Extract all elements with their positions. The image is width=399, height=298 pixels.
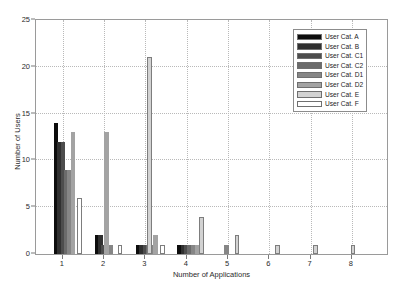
legend-label: User Cat. F bbox=[325, 99, 359, 109]
gridline-vertical bbox=[187, 20, 188, 254]
gridline-horizontal bbox=[36, 113, 387, 114]
x-tick-mark bbox=[103, 255, 104, 259]
x-tick-label: 2 bbox=[101, 259, 105, 268]
bar bbox=[224, 245, 229, 254]
x-tick-label: 4 bbox=[184, 259, 188, 268]
legend-label: User Cat. B bbox=[325, 42, 359, 52]
legend-item: User Cat. C1 bbox=[297, 51, 363, 61]
legend-item: User Cat. D2 bbox=[297, 80, 363, 90]
figure-bar-chart: 0510152025 Number of Users 12345678 Numb… bbox=[0, 0, 399, 298]
legend-item: User Cat. D1 bbox=[297, 70, 363, 80]
bar bbox=[153, 235, 158, 254]
bar bbox=[275, 245, 280, 254]
legend-swatch bbox=[297, 82, 322, 89]
x-tick-label: 8 bbox=[349, 259, 353, 268]
bar bbox=[77, 198, 82, 254]
x-tick-label: 7 bbox=[308, 259, 312, 268]
y-tick-label: 5 bbox=[26, 202, 30, 211]
bar bbox=[160, 245, 165, 254]
y-tick-label: 0 bbox=[26, 249, 30, 258]
legend-item: User Cat. B bbox=[297, 42, 363, 52]
legend-item: User Cat. F bbox=[297, 99, 363, 109]
x-tick-mark bbox=[310, 255, 311, 259]
y-tick-label: 25 bbox=[22, 15, 30, 24]
legend-swatch bbox=[297, 101, 322, 108]
gridline-horizontal bbox=[36, 206, 387, 207]
legend-item: User Cat. C2 bbox=[297, 61, 363, 71]
y-axis-title: Number of Users bbox=[13, 82, 22, 202]
legend-swatch bbox=[297, 53, 322, 60]
bar bbox=[147, 57, 152, 254]
y-tick-label: 20 bbox=[22, 61, 30, 70]
legend-swatch bbox=[297, 62, 322, 69]
bar bbox=[351, 245, 356, 254]
legend-item: User Cat. E bbox=[297, 90, 363, 100]
bar bbox=[118, 245, 123, 254]
y-tick-label: 15 bbox=[22, 108, 30, 117]
x-tick-label: 1 bbox=[60, 259, 64, 268]
x-axis-title: Number of Applications bbox=[35, 270, 388, 279]
legend-label: User Cat. C2 bbox=[325, 61, 363, 71]
legend-swatch bbox=[297, 91, 322, 98]
x-tick-label: 5 bbox=[225, 259, 229, 268]
x-tick-mark bbox=[268, 255, 269, 259]
x-tick-label: 3 bbox=[142, 259, 146, 268]
legend-swatch bbox=[297, 43, 322, 50]
legend-label: User Cat. D1 bbox=[325, 70, 363, 80]
legend: User Cat. AUser Cat. BUser Cat. C1User C… bbox=[293, 29, 367, 112]
x-tick-mark bbox=[227, 255, 228, 259]
legend-label: User Cat. A bbox=[325, 32, 359, 42]
x-tick-label: 6 bbox=[266, 259, 270, 268]
bar bbox=[199, 217, 204, 254]
x-tick-mark bbox=[144, 255, 145, 259]
bar bbox=[104, 132, 109, 254]
legend-label: User Cat. E bbox=[325, 90, 359, 100]
bar bbox=[71, 132, 76, 254]
bar bbox=[235, 235, 240, 254]
gridline-vertical bbox=[228, 20, 229, 254]
gridline-vertical bbox=[269, 20, 270, 254]
bar bbox=[313, 245, 318, 254]
x-tick-mark bbox=[351, 255, 352, 259]
legend-swatch bbox=[297, 72, 322, 79]
legend-label: User Cat. D2 bbox=[325, 80, 363, 90]
x-tick-mark bbox=[62, 255, 63, 259]
y-tick-label: 10 bbox=[22, 155, 30, 164]
gridline-horizontal bbox=[36, 159, 387, 160]
x-tick-mark bbox=[186, 255, 187, 259]
legend-swatch bbox=[297, 34, 322, 41]
x-axis: 12345678 bbox=[35, 255, 388, 271]
legend-label: User Cat. C1 bbox=[325, 51, 363, 61]
legend-item: User Cat. A bbox=[297, 32, 363, 42]
